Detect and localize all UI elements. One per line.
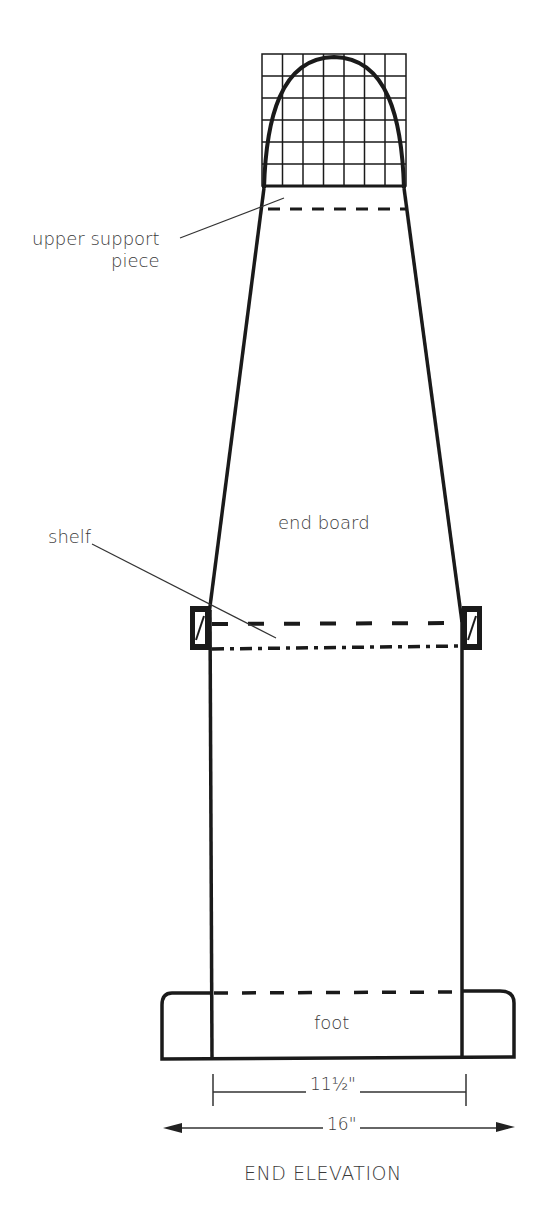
- shelf-bottom-dashed: [212, 646, 462, 649]
- shelf-cleat-right: [462, 606, 482, 650]
- pattern-grid: [262, 54, 406, 186]
- end-elevation-drawing: [0, 0, 545, 1221]
- foot-dashed: [214, 992, 458, 993]
- foot-label: foot: [314, 1012, 349, 1033]
- upper-support-label: upper support piece: [32, 228, 160, 272]
- arrow-left-icon: [163, 1123, 182, 1133]
- drawing-title: END ELEVATION: [244, 1162, 402, 1184]
- upper-support-leader: [180, 198, 284, 238]
- inner-width-dimension: 11½": [306, 1074, 360, 1094]
- shelf-label: shelf: [48, 526, 91, 547]
- arrow-right-icon: [496, 1122, 515, 1132]
- shelf-cleat-left: [190, 606, 210, 650]
- outer-width-dimension: 16": [323, 1114, 360, 1134]
- end-board-label: end board: [278, 512, 370, 533]
- upper-support-label-line2: piece: [32, 250, 160, 272]
- shelf-leader: [92, 544, 276, 638]
- upper-support-label-line1: upper support: [32, 228, 160, 250]
